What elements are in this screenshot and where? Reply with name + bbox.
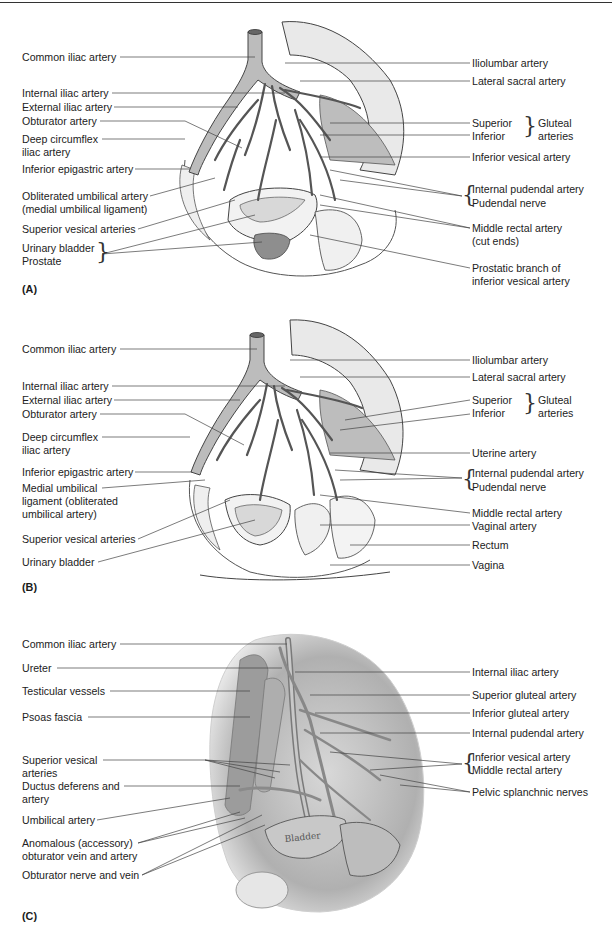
label-iliolumbar-artery: Iliolumbar artery bbox=[472, 354, 548, 367]
label-deep-circumflex: Deep circumflex bbox=[22, 133, 98, 146]
label-psoas-fascia: Psoas fascia bbox=[22, 711, 82, 724]
panel-label-b: (B) bbox=[22, 581, 37, 593]
label-deep-circumflex-line2: iliac artery bbox=[22, 146, 70, 159]
label-superior-gluteal: Superior bbox=[472, 394, 512, 407]
label-internal-pudendal-artery: Internal pudendal artery bbox=[472, 183, 584, 196]
label-medial-umbilical-line2: ligament (obliterated bbox=[22, 495, 118, 508]
label-obturator-artery: Obturator artery bbox=[22, 115, 97, 128]
label-testicular-vessels: Testicular vessels bbox=[22, 685, 105, 698]
label-medial-umbilical: Medial umbilical bbox=[22, 482, 97, 495]
label-middle-rectal-artery: Middle rectal artery bbox=[472, 764, 562, 777]
label-common-iliac-artery: Common iliac artery bbox=[22, 343, 116, 356]
label-umbilical-artery: Umbilical artery bbox=[22, 814, 95, 827]
brace-icon: } bbox=[96, 241, 110, 263]
label-deep-circumflex-line2: iliac artery bbox=[22, 444, 70, 457]
label-vagina: Vagina bbox=[472, 559, 504, 572]
label-inferior-gluteal: Inferior bbox=[472, 407, 505, 420]
label-superior-vesical: Superior vesical bbox=[22, 754, 97, 767]
panel-label-a: (A) bbox=[22, 283, 37, 295]
label-external-iliac-artery: External iliac artery bbox=[22, 394, 112, 407]
label-urinary-bladder: Urinary bladder bbox=[22, 242, 94, 255]
label-arteries: arteries bbox=[538, 130, 573, 143]
label-internal-iliac-artery: Internal iliac artery bbox=[22, 380, 109, 393]
panel-c: Bladder Common iliac artery Ureter Testi bbox=[0, 620, 612, 926]
panel-b: Common iliac artery Internal iliac arter… bbox=[0, 310, 612, 620]
label-superior-gluteal-artery: Superior gluteal artery bbox=[472, 689, 576, 702]
label-rectum: Rectum bbox=[472, 539, 509, 552]
panel-label-c: (C) bbox=[22, 910, 37, 922]
label-internal-pudendal-artery: Internal pudendal artery bbox=[472, 467, 584, 480]
label-lateral-sacral-artery: Lateral sacral artery bbox=[472, 371, 566, 384]
label-prostatic-branch: Prostatic branch of bbox=[472, 262, 560, 275]
label-inferior-gluteal: Inferior bbox=[472, 130, 505, 143]
label-inferior-vesical-artery: Inferior vesical artery bbox=[472, 151, 570, 164]
label-common-iliac-artery: Common iliac artery bbox=[22, 638, 116, 651]
label-inferior-epigastric-artery: Inferior epigastric artery bbox=[22, 163, 133, 176]
label-internal-iliac-artery: Internal iliac artery bbox=[22, 87, 109, 100]
brace-icon: } bbox=[523, 115, 537, 137]
label-superior-vesical-line2: arteries bbox=[22, 767, 57, 780]
label-cut-ends: (cut ends) bbox=[472, 235, 519, 248]
label-common-iliac-artery: Common iliac artery bbox=[22, 51, 116, 64]
label-inferior-gluteal-artery: Inferior gluteal artery bbox=[472, 707, 569, 720]
label-anomalous-obturator: Anomalous (accessory) bbox=[22, 837, 133, 850]
label-superior-vesical-arteries: Superior vesical arteries bbox=[22, 223, 136, 236]
label-ureter: Ureter bbox=[22, 662, 51, 675]
label-ductus-deferens-line2: artery bbox=[22, 793, 49, 806]
label-deep-circumflex: Deep circumflex bbox=[22, 431, 98, 444]
label-arteries: arteries bbox=[538, 407, 573, 420]
label-ductus-deferens: Ductus deferens and bbox=[22, 780, 120, 793]
label-pelvic-splanchnic-nerves: Pelvic splanchnic nerves bbox=[472, 786, 588, 799]
label-vaginal-artery: Vaginal artery bbox=[472, 520, 537, 533]
label-anomalous-obturator-line2: obturator vein and artery bbox=[22, 850, 137, 863]
label-pudendal-nerve: Pudendal nerve bbox=[472, 481, 546, 494]
label-gluteal: Gluteal bbox=[538, 117, 572, 130]
label-medial-umbilical-ligament: (medial umbilical ligament) bbox=[22, 203, 147, 216]
label-uterine-artery: Uterine artery bbox=[472, 447, 536, 460]
label-prostate: Prostate bbox=[22, 255, 61, 268]
label-internal-iliac-artery: Internal iliac artery bbox=[472, 666, 559, 679]
label-gluteal: Gluteal bbox=[538, 394, 572, 407]
label-pudendal-nerve: Pudendal nerve bbox=[472, 197, 546, 210]
label-superior-gluteal: Superior bbox=[472, 117, 512, 130]
label-internal-pudendal-artery: Internal pudendal artery bbox=[472, 727, 584, 740]
label-urinary-bladder: Urinary bladder bbox=[22, 556, 94, 569]
label-external-iliac-artery: External iliac artery bbox=[22, 101, 112, 114]
label-superior-vesical-arteries: Superior vesical arteries bbox=[22, 533, 136, 546]
label-inferior-epigastric-artery: Inferior epigastric artery bbox=[22, 466, 133, 479]
label-obturator-nerve-vein: Obturator nerve and vein bbox=[22, 869, 139, 882]
label-inferior-vesical-artery: Inferior vesical artery bbox=[472, 751, 570, 764]
brace-icon: } bbox=[523, 392, 537, 414]
label-middle-rectal-artery: Middle rectal artery bbox=[472, 222, 562, 235]
label-medial-umbilical-line3: umbilical artery) bbox=[22, 508, 97, 521]
label-obturator-artery: Obturator artery bbox=[22, 408, 97, 421]
label-prostatic-branch-line2: inferior vesical artery bbox=[472, 275, 570, 288]
panel-a: Common iliac artery Internal iliac arter… bbox=[0, 0, 612, 310]
label-iliolumbar-artery: Iliolumbar artery bbox=[472, 57, 548, 70]
label-middle-rectal-artery: Middle rectal artery bbox=[472, 507, 562, 520]
label-obliterated-umbilical-artery: Obliterated umbilical artery bbox=[22, 190, 148, 203]
label-lateral-sacral-artery: Lateral sacral artery bbox=[472, 75, 566, 88]
